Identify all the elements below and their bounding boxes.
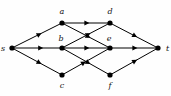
node-s[interactable] [9,45,14,50]
node-d[interactable] [107,20,112,25]
edge-s-to-a [14,24,60,47]
arrowhead-layer [36,20,137,66]
graph-canvas: sabcdeft [0,0,171,96]
node-label-t: t [166,44,170,53]
arrowhead-s-to-b [38,45,43,50]
directed-graph-figure: sabcdeft [0,0,171,96]
node-b[interactable] [59,45,64,50]
node-label-d: d [107,7,112,16]
node-label-a: a [60,7,65,16]
node-label-e: e [107,34,112,43]
arrowhead-a-to-d [84,20,89,25]
node-label-b: b [58,34,63,43]
node-label-c: c [60,81,65,90]
node-label-s: s [1,44,5,53]
node-e[interactable] [107,45,112,50]
node-t[interactable] [155,45,160,50]
node-a[interactable] [59,20,64,25]
arrowhead-e-to-t [132,45,137,50]
node-c[interactable] [59,72,64,77]
node-label-f: f [108,81,114,90]
edge-s-to-c [14,49,60,74]
node-f[interactable] [107,72,112,77]
arrowhead-b-to-e [84,45,89,50]
